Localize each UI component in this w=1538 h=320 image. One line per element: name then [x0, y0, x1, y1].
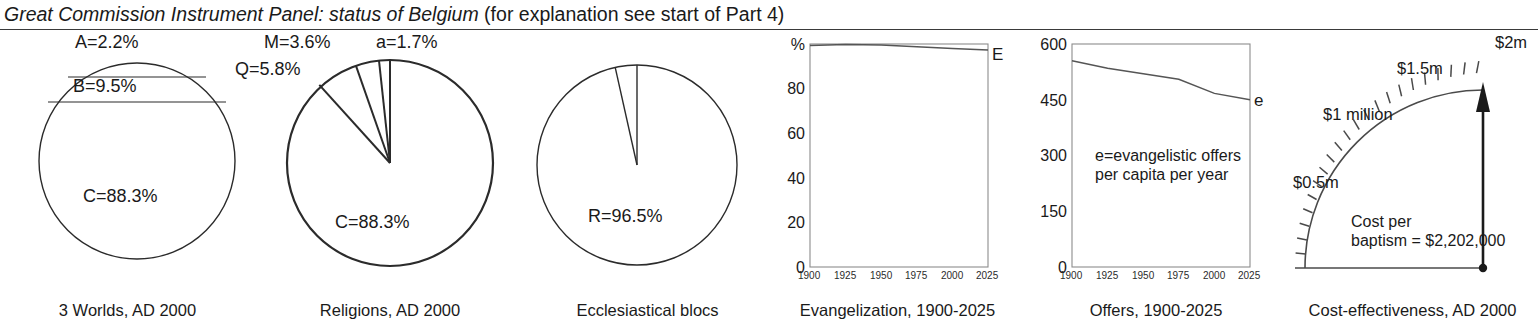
- chart-cost-effectiveness: $0.5m $1 million $1.5m $2m Cost per bapt…: [1287, 30, 1538, 320]
- caption-evangelization: Evangelization, 1900-2025: [770, 301, 1025, 319]
- gauge-label-1-million: $1 million: [1323, 105, 1393, 123]
- evangelization-xtick-1925: 1925: [834, 270, 856, 281]
- label-religion-m: M=3.6%: [264, 33, 331, 52]
- gauge-tick: [1308, 195, 1317, 200]
- evangelization-ytick-60: 60: [772, 125, 805, 142]
- label-world-b: B=9.5%: [73, 77, 137, 96]
- offers-ytick-150: 150: [1025, 203, 1067, 220]
- offers-xtick-1975: 1975: [1167, 270, 1189, 281]
- world-circle-outline: [39, 63, 235, 259]
- gauge-tick: [1303, 209, 1312, 213]
- gauge-tick: [1327, 155, 1335, 163]
- gauge-tick: [1412, 78, 1414, 90]
- offers-xtick-1900: 1900: [1060, 270, 1082, 281]
- evangelization-xtick-1950: 1950: [870, 270, 892, 281]
- evangelization-ytick-80: 80: [772, 80, 805, 97]
- page-title-note: (for explanation see start of Part 4): [479, 3, 785, 25]
- gauge-tick: [1300, 223, 1310, 226]
- gauge-tick: [1399, 85, 1402, 97]
- evangelization-ytick-40: 40: [772, 170, 805, 187]
- instrument-panel: Great Commission Instrument Panel: statu…: [0, 0, 1538, 320]
- evangelization-series-label: E: [992, 46, 1003, 64]
- label-blocs-r: R=96.5%: [588, 207, 663, 226]
- label-religion-c: C=88.3%: [335, 213, 410, 232]
- evangelization-plot-frame: [810, 44, 988, 267]
- gauge-tick: [1296, 253, 1306, 254]
- gauge-tick: [1477, 61, 1479, 73]
- offers-series-label: e: [1254, 92, 1263, 110]
- caption-religions: Religions, AD 2000: [255, 301, 525, 319]
- label-religion-a: a=1.7%: [376, 33, 438, 52]
- caption-offers: Offers, 1900-2025: [1025, 301, 1287, 319]
- caption-cost-effectiveness: Cost-effectiveness, AD 2000: [1287, 301, 1538, 319]
- label-religion-q: Q=5.8%: [235, 60, 301, 79]
- page-title: Great Commission Instrument Panel: statu…: [4, 2, 784, 26]
- chart-evangelization: % 80 60 40 20 0 1900 1925 1950 1975 2000…: [770, 30, 1025, 320]
- offers-ytick-300: 300: [1025, 147, 1067, 164]
- offers-ytick-600: 600: [1025, 36, 1067, 53]
- evangelization-ytick-20: 20: [772, 214, 805, 231]
- offers-annotation: e=evangelistic offers per capita per yea…: [1095, 146, 1241, 184]
- gauge-tick: [1451, 65, 1452, 77]
- gauge-label-0-5m: $0.5m: [1293, 173, 1339, 191]
- gauge-tick: [1344, 131, 1351, 140]
- offers-xtick-1925: 1925: [1096, 270, 1118, 281]
- chart-religions: M=3.6% a=1.7% Q=5.8% C=88.3% Religions, …: [255, 30, 525, 320]
- evangelization-xtick-2000: 2000: [941, 270, 963, 281]
- gauge-tick: [1297, 238, 1307, 240]
- evangelization-xtick-1900: 1900: [798, 270, 820, 281]
- gauge-pivot: [1479, 264, 1487, 272]
- three-worlds-diagram: [0, 30, 255, 295]
- chart-three-worlds: A=2.2% B=9.5% C=88.3% 3 Worlds, AD 2000: [0, 30, 255, 320]
- gauge-annotation: Cost per baptism = $2,202,000: [1351, 212, 1505, 250]
- panel-header: Great Commission Instrument Panel: statu…: [0, 0, 1538, 30]
- offers-ytick-450: 450: [1025, 92, 1067, 109]
- caption-three-worlds: 3 Worlds, AD 2000: [0, 301, 255, 319]
- gauge-tick: [1387, 92, 1391, 103]
- evangelization-xtick-1975: 1975: [905, 270, 927, 281]
- page-title-main: Great Commission Instrument Panel: statu…: [4, 3, 479, 25]
- blocs-pie: [525, 30, 770, 295]
- gauge-label-2m: $2m: [1495, 33, 1527, 51]
- offers-xtick-2025: 2025: [1238, 270, 1260, 281]
- chart-offers: 600 450 300 150 0 1900 1925 1950 1975 20…: [1025, 30, 1287, 320]
- evangelization-ytick-100: %: [772, 36, 805, 53]
- evangelization-xtick-2025: 2025: [976, 270, 998, 281]
- gauge-label-1-5m: $1.5m: [1397, 59, 1443, 77]
- label-world-a: A=2.2%: [75, 33, 139, 52]
- gauge-needle-arrowhead: [1476, 82, 1490, 112]
- caption-blocs: Ecclesiastical blocs: [525, 301, 770, 319]
- offers-xtick-1950: 1950: [1132, 270, 1154, 281]
- evangelization-plot: [770, 30, 1025, 295]
- offers-xtick-2000: 2000: [1203, 270, 1225, 281]
- gauge-tick: [1464, 62, 1466, 74]
- gauge-tick: [1335, 142, 1342, 150]
- chart-ecclesiastical-blocs: R=96.5% Ecclesiastical blocs: [525, 30, 770, 320]
- label-world-c: C=88.3%: [83, 187, 158, 206]
